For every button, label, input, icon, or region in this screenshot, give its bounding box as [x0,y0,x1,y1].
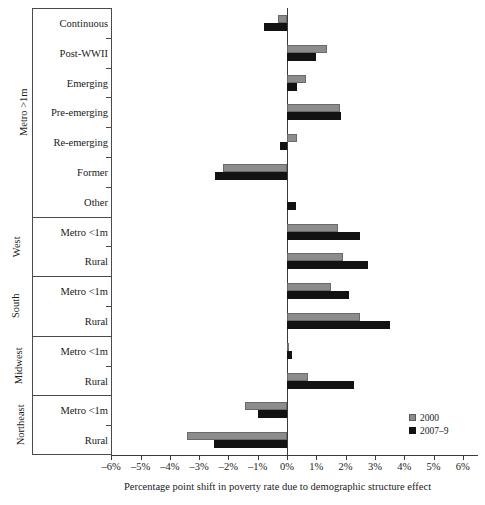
bar-2000 [287,313,360,321]
poverty-demographic-shift-chart: Metro >1mWestSouthMidwestNortheast Conti… [0,0,485,505]
category-label: Post-WWII [33,48,111,59]
bar-2007-9 [287,53,316,61]
x-axis-tick [375,455,376,460]
category-label: Rural [33,256,111,267]
category-label: Metro <1m [33,227,111,238]
bar-2007-9 [287,351,292,359]
x-axis-tick-label: 4% [389,461,419,472]
x-axis-tick [199,455,200,460]
x-axis-tick-label: 2% [331,461,361,472]
legend-swatch-2007-9-icon [409,427,416,434]
x-axis-tick-label: 6% [448,461,478,472]
group-divider [32,336,112,337]
bar-2007-9 [280,142,287,150]
x-axis-tick-label: –6% [96,461,126,472]
x-axis-tick-label: –1% [243,461,273,472]
bar-2000 [287,373,308,381]
bar-2007-9 [287,202,296,210]
category-label: Emerging [33,78,111,89]
bar-2007-9 [287,291,349,299]
x-axis-tick [404,455,405,460]
bar-2007-9 [287,381,354,389]
bar-2007-9 [215,172,287,180]
bar-2007-9 [258,410,287,418]
plot-area [112,8,478,455]
bar-2007-9 [287,232,360,240]
x-axis-tick-label: –4% [155,461,185,472]
category-label: Rural [33,376,111,387]
x-axis-title: Percentage point shift in poverty rate d… [0,481,485,492]
category-label: Former [33,167,111,178]
group-divider [32,276,112,277]
category-label: Metro <1m [33,346,111,357]
x-axis-tick [434,455,435,460]
group-label: Metro >1m [0,8,32,217]
bar-2000 [287,104,340,112]
x-axis-tick-label: 1% [301,461,331,472]
x-axis-tick [463,455,464,460]
legend-item-2000: 2000 [409,412,449,423]
category-label: Rural [33,435,111,446]
x-axis-tick-label: –3% [184,461,214,472]
x-axis-tick [228,455,229,460]
bar-2000 [287,134,297,142]
bar-2000 [245,402,287,410]
category-label: Metro <1m [33,405,111,416]
bar-2000 [287,224,338,232]
bar-2000 [223,164,287,172]
x-axis-tick [141,455,142,460]
bar-2007-9 [287,261,368,269]
group-label: Midwest [0,336,32,396]
bar-2000 [187,432,287,440]
x-axis-tick-label: 3% [360,461,390,472]
bar-2000 [287,343,289,351]
bar-2007-9 [287,321,390,329]
group-label: Northeast [0,395,32,455]
x-axis-tick [316,455,317,460]
legend: 2000 2007–9 [409,412,449,438]
category-label: Re-emerging [33,137,111,148]
bar-2000 [287,283,331,291]
x-axis-title-text: Percentage point shift in poverty rate d… [54,481,431,492]
bar-2007-9 [214,440,287,448]
x-axis-tick [111,455,112,460]
group-label: West [0,217,32,277]
x-axis-tick [287,455,288,460]
category-label: Continuous [33,18,111,29]
x-axis-line [112,455,478,456]
bar-2000 [287,75,306,83]
category-label-column: ContinuousPost-WWIIEmergingPre-emergingR… [32,8,112,455]
group-label: South [0,276,32,336]
bar-2000 [287,45,327,53]
group-divider [32,395,112,396]
category-label: Metro <1m [33,286,111,297]
legend-swatch-2000-icon [409,414,416,421]
x-axis-tick-label: 5% [419,461,449,472]
category-label: Other [33,197,111,208]
bar-2007-9 [287,112,341,120]
x-axis-tick-label: 0% [272,461,302,472]
bar-2000 [287,253,343,261]
category-label: Pre-emerging [33,107,111,118]
x-axis-tick [346,455,347,460]
x-axis-tick [170,455,171,460]
bar-2007-9 [287,83,297,91]
category-label: Rural [33,316,111,327]
x-axis-tick-label: –2% [213,461,243,472]
group-divider [32,217,112,218]
legend-item-2007-9: 2007–9 [409,425,449,436]
x-axis-tick [258,455,259,460]
legend-label-2000: 2000 [420,413,439,423]
bar-2000 [278,15,287,23]
bar-2007-9 [264,23,287,31]
legend-label-2007-9: 2007–9 [420,426,449,436]
x-axis-tick-label: –5% [126,461,156,472]
